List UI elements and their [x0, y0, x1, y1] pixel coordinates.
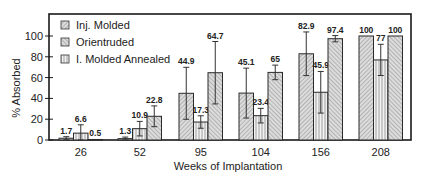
value-label: 23.4	[252, 97, 269, 107]
x-tick-label: 95	[195, 146, 207, 158]
bar-group-95: 44.917.364.7	[178, 31, 224, 140]
bar-chart: 020406080100 % Absorbed Weeks of Implant…	[0, 0, 422, 179]
bar-group-52: 1.310.922.8	[118, 95, 163, 140]
value-label: 44.9	[178, 56, 195, 66]
x-tick-label: 104	[252, 146, 270, 158]
bar	[388, 36, 403, 140]
y-tick-label: 20	[31, 113, 43, 125]
bar	[88, 139, 103, 140]
value-label: 82.9	[298, 21, 315, 31]
x-tick-label: 52	[134, 146, 146, 158]
value-label: 45.9	[312, 60, 329, 70]
legend-label: Orientruded	[76, 36, 134, 48]
y-tick-label: 40	[31, 92, 43, 104]
legend-swatch	[61, 21, 69, 29]
bar	[359, 36, 374, 140]
value-label: 1.7	[60, 126, 72, 136]
x-axis: 265295104156208	[75, 146, 390, 158]
legend: Inj. MoldedOrientrudedI. Molded Annealed	[61, 19, 170, 65]
value-label: 0.5	[89, 128, 101, 138]
value-label: 45.1	[238, 57, 255, 67]
x-tick-label: 156	[312, 146, 330, 158]
value-label: 10.9	[131, 110, 148, 120]
bar-group-104: 45.123.465	[238, 54, 283, 140]
legend-label: I. Molded Annealed	[76, 53, 170, 65]
bar	[328, 39, 343, 140]
value-label: 100	[359, 25, 373, 35]
value-label: 100	[388, 25, 402, 35]
legend-swatch	[61, 38, 69, 46]
x-axis-title: Weeks of Implantation	[174, 160, 283, 172]
value-label: 1.3	[119, 126, 131, 136]
value-label: 77	[376, 33, 386, 43]
value-label: 17.3	[192, 105, 209, 115]
value-label: 65	[271, 54, 281, 64]
y-tick-label: 100	[25, 30, 43, 42]
value-label: 64.7	[207, 31, 224, 41]
legend-label: Inj. Molded	[76, 19, 130, 31]
y-tick-label: 0	[37, 134, 43, 146]
bar-group-26: 1.76.60.5	[59, 114, 103, 140]
value-label: 6.6	[75, 114, 87, 124]
legend-swatch	[61, 55, 69, 63]
bar	[268, 72, 283, 140]
y-axis-title: % Absorbed	[10, 58, 22, 117]
value-label: 22.8	[146, 95, 163, 105]
value-label: 97.4	[327, 25, 344, 35]
y-tick-label: 80	[31, 51, 43, 63]
bar-group-208: 10077100	[359, 25, 403, 140]
bar-group-156: 82.945.997.4	[298, 21, 344, 140]
x-tick-label: 26	[75, 146, 87, 158]
x-tick-label: 208	[372, 146, 390, 158]
plot-frame	[49, 14, 411, 140]
y-tick-label: 60	[31, 72, 43, 84]
